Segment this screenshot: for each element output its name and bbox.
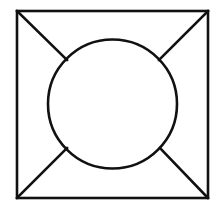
top-left-connector [17, 11, 67, 60]
bottom-right-connector [160, 148, 208, 198]
top-right-connector [159, 11, 208, 60]
bottom-left-connector [17, 148, 67, 198]
square-circle-diagram [0, 0, 220, 212]
